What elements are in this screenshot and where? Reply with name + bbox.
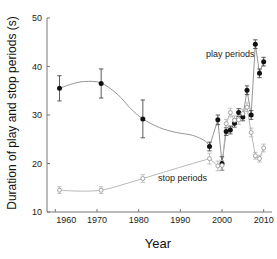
y-tick-label: 10 <box>32 207 42 217</box>
x-tick-label: 1970 <box>87 215 107 225</box>
x-tick-label: 2000 <box>212 215 232 225</box>
data-point-play <box>57 86 62 91</box>
error-bars-group <box>57 40 266 194</box>
series-connector-lines <box>210 44 264 166</box>
connector-play-periods <box>210 44 264 163</box>
data-point-play <box>236 110 241 115</box>
data-point-play <box>257 71 262 76</box>
annotation-label: stop periods <box>158 173 208 183</box>
data-point-stop <box>249 130 253 134</box>
x-tick-label: 1990 <box>170 215 190 225</box>
data-point-stop <box>141 177 145 181</box>
x-axis-title: Year <box>145 236 172 251</box>
x-axis-ticks: 196019701980199020002010 <box>55 209 273 225</box>
data-point-stop <box>237 118 241 122</box>
duration-scatter-chart: 1020304050 196019701980199020002010 play… <box>0 0 277 259</box>
data-point-stop <box>99 188 103 192</box>
data-point-stop <box>233 118 237 122</box>
data-point-stop <box>228 111 232 115</box>
data-point-play <box>245 88 250 93</box>
y-axis-title: Duration of play and stop periods (s) <box>5 16 19 209</box>
trend-line-play-periods <box>60 81 210 146</box>
data-point-stop <box>216 164 220 168</box>
data-point-play <box>228 128 233 133</box>
data-point-play <box>207 144 212 149</box>
data-point-stop <box>245 105 249 109</box>
data-point-stop <box>58 188 62 192</box>
chart-figure: 1020304050 196019701980199020002010 play… <box>0 0 277 259</box>
data-point-play <box>99 81 104 86</box>
x-tick-label: 1980 <box>129 215 149 225</box>
x-tick-label: 1960 <box>56 215 76 225</box>
data-point-stop <box>253 154 257 158</box>
y-tick-label: 30 <box>32 110 42 120</box>
data-point-play <box>253 42 258 47</box>
y-tick-label: 40 <box>32 62 42 72</box>
data-point-stop <box>262 146 266 150</box>
data-point-stop <box>220 163 224 167</box>
data-point-play <box>249 113 254 118</box>
data-point-play <box>261 59 266 64</box>
y-tick-label: 50 <box>32 13 42 23</box>
x-tick-label: 2010 <box>254 215 274 225</box>
data-point-stop <box>241 112 245 116</box>
annotation-label: play periods <box>206 49 255 59</box>
data-point-stop <box>208 157 212 161</box>
data-point-play <box>215 117 220 122</box>
data-point-stop <box>224 122 228 126</box>
data-point-play <box>140 116 145 121</box>
y-tick-label: 20 <box>32 159 42 169</box>
data-point-stop <box>258 157 262 161</box>
